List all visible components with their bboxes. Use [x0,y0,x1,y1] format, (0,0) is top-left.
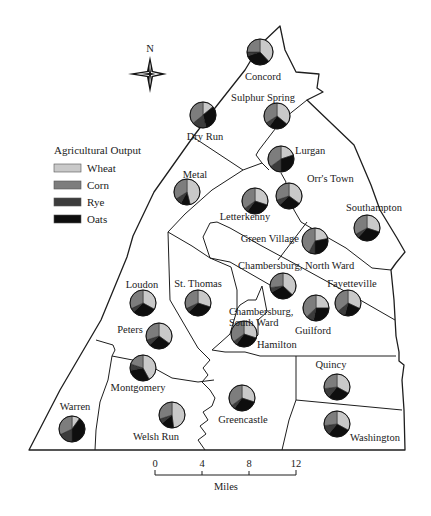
township-label: Montgomery [111,382,167,393]
pie-chart-warren [59,416,85,442]
legend-swatch-wheat [54,164,81,172]
boundary-hamilton-south [212,350,396,356]
township-label: Lurgan [295,145,326,156]
scale-tick-4: 4 [199,458,205,469]
pie-chart-washington [324,411,350,437]
legend-swatch-corn [54,181,81,189]
legend: Agricultural Output WheatCornRyeOats [54,144,141,225]
township-label: Welsh Run [133,431,180,442]
township-label: Hamilton [257,339,297,350]
boundary-quincy-west [282,356,296,450]
legend-items: WheatCornRyeOats [54,162,116,225]
pie-chart-sulphur-spring [264,103,290,129]
township-label: Quincy [316,359,348,370]
scale-unit-label: Miles [214,481,238,492]
boundary-quincy-washington [296,400,402,410]
north-arrow-compass: N [128,43,167,93]
pie-chart-montgomery [130,355,156,381]
pie-chart-st-thomas [185,290,211,316]
township-label: Chambersburg, [229,306,293,317]
legend-label-oats: Oats [87,213,107,225]
legend-item-wheat: Wheat [54,162,116,174]
legend-label-wheat: Wheat [87,162,116,174]
township-label: Concord [245,71,282,82]
pie-chart-dry-run [190,102,216,128]
township-label: Greencastle [218,414,268,425]
scale-tick-12: 12 [291,458,302,469]
township-label: Guilford [295,325,332,336]
county-map: N Agricultural Output WheatCornRyeOats 0… [0,0,431,516]
pie-chart-quincy [324,374,350,400]
pie-chart-loudon [130,290,156,316]
township-label: Metal [183,169,208,180]
pie-chart-southampton [354,215,380,241]
scale-tick-0: 0 [152,458,157,469]
pie-chart-orr-s-town [276,183,302,209]
township-label: South Ward [229,317,279,328]
legend-label-corn: Corn [87,179,110,191]
pie-chart-green-village [302,228,328,254]
boundary-river-west [198,360,215,450]
boundary-peters-montgomery [112,356,214,382]
township-label: Loudon [126,279,159,290]
township-label: St. Thomas [174,278,222,289]
township-label: Fayetteville [327,278,377,289]
pie-chart-metal [174,179,200,205]
township-label: Chambersburg, North Ward [238,260,355,271]
pie-chart-welsh-run [159,402,185,428]
scale-bar: 0 4 8 12 Miles [152,458,301,492]
township-labels: ConcordSulphur SpringDry RunLurganMetalL… [60,71,403,443]
map-canvas: N Agricultural Output WheatCornRyeOats 0… [0,0,431,516]
township-label: Southampton [346,202,403,213]
pie-chart-concord [247,39,273,65]
township-label: Orr's Town [307,173,355,184]
legend-label-rye: Rye [87,196,104,208]
township-label: Sulphur Spring [231,92,296,103]
pie-slice-wheat [172,402,185,428]
scale-bar-line [155,470,296,475]
legend-item-oats: Oats [54,213,107,225]
scale-tick-8: 8 [246,458,251,469]
pie-chart-fayetteville [335,290,361,316]
legend-item-corn: Corn [54,179,110,191]
township-label: Dry Run [187,131,224,142]
pie-chart-lurgan [268,146,294,172]
pie-chart-greencastle [229,385,255,411]
township-label: Warren [60,401,91,412]
legend-swatch-rye [54,198,81,206]
legend-item-rye: Rye [54,196,104,208]
township-label: Letterkenny [220,211,271,222]
legend-title: Agricultural Output [54,144,141,156]
north-label: N [146,43,154,54]
township-label: Green Village [241,233,300,244]
township-label: Washington [350,432,401,443]
pie-chart-chambersburg-north-ward [270,273,296,299]
pie-chart-guilford [303,295,329,321]
township-label: Peters [117,324,143,335]
pie-chart-peters [146,323,172,349]
legend-swatch-oats [54,215,81,223]
